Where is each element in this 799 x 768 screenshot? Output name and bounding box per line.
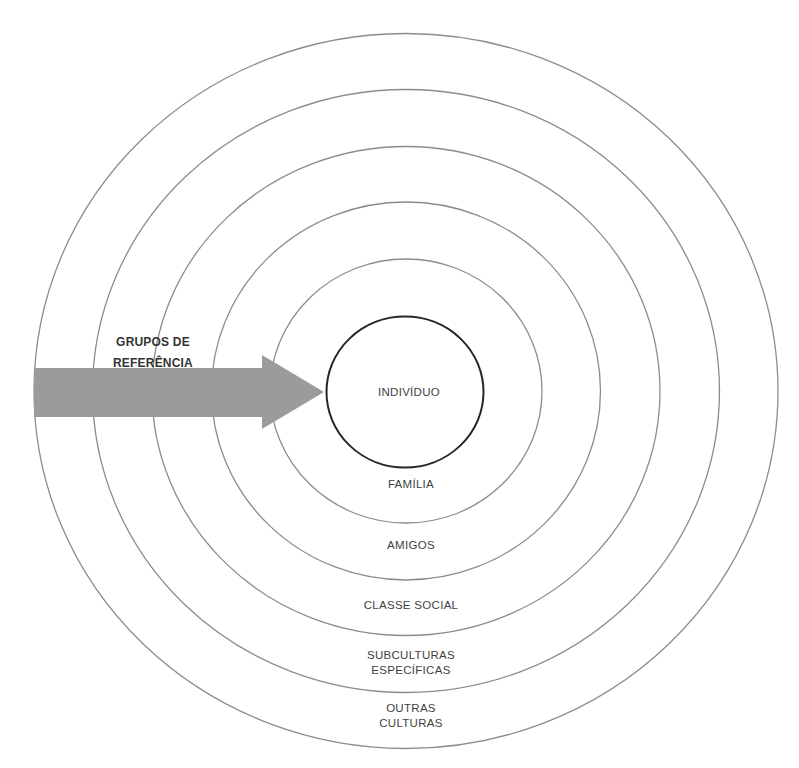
arrow-label-line-1: GRUPOS DE (116, 335, 190, 349)
ring-label-classe-social: CLASSE SOCIAL (364, 599, 459, 611)
ring-label-familia: FAMÍLIA (388, 478, 434, 490)
center-label-individuo: INDIVÍDUO (378, 386, 440, 398)
ring-label-outras: OUTRAS (386, 702, 436, 714)
ring-label-especificas: ESPECÍFICAS (371, 664, 450, 676)
ring-label-subculturas: SUBCULTURAS (367, 649, 455, 661)
ring-label-amigos: AMIGOS (387, 539, 435, 551)
reference-groups-diagram: GRUPOS DE REFERÊNCIA INDIVÍDUO FAMÍLIA A… (0, 0, 799, 768)
arrow-label-line-2: REFERÊNCIA (113, 355, 193, 370)
ring-label-culturas: CULTURAS (379, 717, 443, 729)
